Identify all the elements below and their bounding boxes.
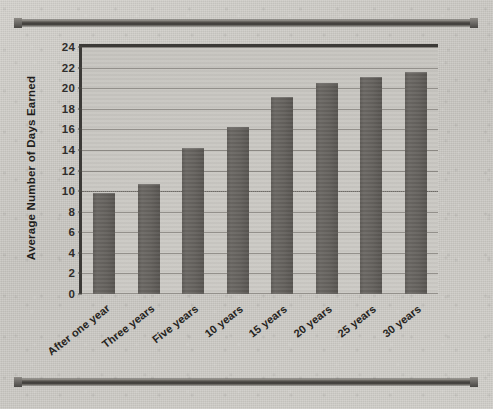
y-axis-title: Average Number of Days Earned: [22, 44, 40, 291]
bar[interactable]: [138, 184, 160, 294]
x-axis-label-cell: 30 years: [391, 298, 436, 378]
plot-area: 024681012141618202224: [79, 44, 438, 294]
y-axis-tick-label: 22: [62, 62, 75, 74]
bar[interactable]: [227, 127, 249, 294]
y-axis-tick-label: 16: [62, 123, 75, 135]
bar[interactable]: [271, 97, 293, 294]
bars-group: [82, 47, 438, 294]
y-axis-tick-label: 18: [62, 103, 75, 115]
y-axis-tick-label: 10: [62, 185, 75, 197]
y-axis-tick-label: 4: [68, 247, 75, 259]
bottom-rule-left-cap: [14, 377, 22, 387]
x-axis-labels-group: After one yearThree yearsFive years10 ye…: [79, 298, 435, 378]
y-axis-tick-label: 20: [62, 82, 75, 94]
y-axis-tick-label: 8: [68, 206, 75, 218]
bar-cell: [127, 47, 172, 294]
bar[interactable]: [182, 148, 204, 294]
x-axis-label-cell: 25 years: [346, 298, 391, 378]
y-axis-title-text: Average Number of Days Earned: [25, 75, 37, 259]
y-axis-tick-label: 14: [62, 144, 75, 156]
bar[interactable]: [93, 193, 115, 294]
bar-cell: [216, 47, 261, 294]
bar[interactable]: [405, 72, 427, 294]
plot-wrapper: Average Number of Days Earned 0246810121…: [16, 26, 476, 379]
x-axis-label-cell: 15 years: [257, 298, 302, 378]
bottom-rule-right-cap: [470, 377, 478, 387]
bar-cell: [305, 47, 350, 294]
x-axis-label-cell: 10 years: [213, 298, 258, 378]
bar-cell: [82, 47, 127, 294]
x-axis-tick-label: After one year: [45, 302, 112, 358]
y-axis-tick-label: 24: [62, 41, 75, 53]
bar-cell: [260, 47, 305, 294]
bar[interactable]: [360, 77, 382, 294]
bar-cell: [394, 47, 439, 294]
bar[interactable]: [316, 83, 338, 294]
bar-cell: [349, 47, 394, 294]
x-axis-label-cell: Five years: [168, 298, 213, 378]
y-axis-tick-label: 6: [68, 226, 75, 238]
y-axis-tick-label: 0: [68, 288, 75, 300]
y-axis-tick-label: 2: [68, 267, 75, 279]
x-axis-label-cell: 20 years: [302, 298, 347, 378]
bar-cell: [171, 47, 216, 294]
figure-bottom-rule: [16, 379, 476, 385]
chart-figure: Average Number of Days Earned 0246810121…: [16, 20, 476, 385]
y-axis-tick-label: 12: [62, 165, 75, 177]
